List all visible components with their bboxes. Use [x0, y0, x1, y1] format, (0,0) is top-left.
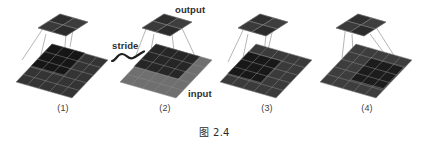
figure-container: (1) — [0, 0, 429, 146]
panel-2-label: (2) — [110, 103, 220, 113]
panel-3-label: (3) — [212, 103, 322, 113]
panel-1-diagram — [8, 0, 118, 110]
panel-3: (3) — [212, 0, 322, 125]
input-grid-1 — [16, 44, 108, 98]
input-label: input — [188, 88, 212, 99]
panel-4-diagram — [312, 0, 422, 110]
stride-brace-icon — [110, 50, 150, 64]
panel-4-label: (4) — [312, 103, 422, 113]
panel-3-diagram — [212, 0, 322, 110]
panel-1: (1) — [8, 0, 118, 125]
figure-caption: 图 2.4 — [0, 124, 429, 139]
output-grid-1 — [38, 14, 88, 36]
input-grid-4 — [320, 44, 412, 98]
input-grid-3 — [220, 44, 312, 98]
output-grid-2 — [142, 14, 192, 36]
output-grid-4 — [336, 14, 386, 36]
output-grid-3 — [238, 14, 288, 36]
output-label: output — [175, 4, 205, 15]
panel-1-label: (1) — [8, 103, 118, 113]
panel-4: (4) — [312, 0, 422, 125]
